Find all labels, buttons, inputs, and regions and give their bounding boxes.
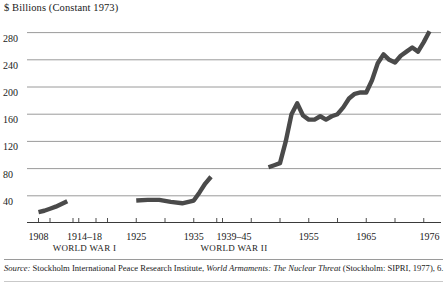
chart-figure: $ Billions (Constant 1973) 4080120160200… (0, 0, 447, 285)
y-tick-label: 120 (3, 142, 27, 152)
source-publication-title: World Armaments: The Nuclear Threat (206, 263, 340, 273)
y-tick-label: 160 (3, 115, 27, 125)
x-tick-label: 1965 (356, 231, 376, 242)
source-note: Source: Stockholm International Peace Re… (4, 263, 445, 274)
chart-canvas (27, 19, 441, 223)
source-text-before: Stockholm International Peace Research I… (30, 263, 206, 273)
war-label: WORLD WAR II (201, 243, 268, 253)
x-tick-label: 1908 (29, 231, 49, 242)
x-axis-tick-labels: 19081914–18192519351939–45195519651976 (0, 231, 447, 243)
x-tick-label: 1976 (420, 231, 440, 242)
y-tick-label: 80 (3, 170, 27, 180)
x-tick-label: 1935 (184, 231, 204, 242)
bottom-divider (4, 281, 443, 282)
war-label: WORLD WAR I (53, 243, 117, 253)
y-axis-title: $ Billions (Constant 1973) (4, 2, 118, 13)
x-tick-label: 1925 (126, 231, 146, 242)
y-tick-label: 40 (3, 197, 27, 207)
x-tick-label: 1914–18 (67, 231, 102, 242)
source-text-after: (Stockholm: SIPRI, 1977), 6. (341, 263, 444, 273)
source-label: Source: (4, 263, 30, 273)
source-divider (4, 259, 443, 260)
y-tick-label: 240 (3, 61, 27, 71)
y-axis-tick-labels: 4080120160200240280 (2, 19, 27, 223)
y-tick-label: 280 (3, 34, 27, 44)
war-period-labels: WORLD WAR IWORLD WAR II (0, 243, 447, 255)
x-tick-label: 1955 (299, 231, 319, 242)
data-line-series (39, 31, 430, 212)
y-tick-label: 200 (3, 88, 27, 98)
x-tick-label: 1939–45 (217, 231, 252, 242)
plot-area (27, 19, 441, 223)
